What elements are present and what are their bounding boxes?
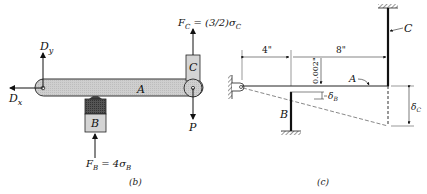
fb-label: FB = 4σB (85, 158, 131, 172)
bottom-support-hatch (281, 131, 301, 135)
diagram-canvas: Dy Dx A B FB = 4σB C FC = (3/2)σC P (b) (0, 0, 427, 194)
a-leader (358, 79, 369, 85)
block-b-label: B (90, 117, 99, 130)
left-wall-hatch (228, 75, 232, 99)
dx-label: Dx (8, 92, 23, 107)
caption-b: (b) (129, 177, 142, 187)
link-c-label: C (189, 61, 198, 74)
p-label: P (188, 121, 197, 134)
bar-a-label: A (136, 83, 145, 96)
top-support-hatch (378, 4, 398, 8)
deflected-line (243, 88, 388, 126)
gap-dim-label: 0.002" (311, 57, 320, 84)
delta-b-label: δB (328, 91, 338, 102)
dim-4-label: 4" (262, 45, 272, 55)
delta-c-label: δC (411, 102, 421, 113)
fc-label: FC = (3/2)σC (177, 17, 242, 31)
rod-b-label: B (279, 108, 288, 121)
dy-label: Dy (39, 40, 54, 55)
bar-a-label-c: A (348, 73, 356, 84)
figure-c-deflection-diagram: C δB B 0.002" 4" 8" A δC (c) (228, 4, 421, 187)
rod-c-label: C (404, 22, 413, 35)
bar-a (35, 79, 203, 96)
figure-b-free-body-diagram: Dy Dx A B FB = 4σB C FC = (3/2)σC P (b) (8, 17, 242, 187)
dim-8-label: 8" (336, 45, 346, 55)
caption-c: (c) (317, 177, 330, 187)
c-leader (390, 28, 403, 31)
block-b-top (85, 99, 106, 114)
